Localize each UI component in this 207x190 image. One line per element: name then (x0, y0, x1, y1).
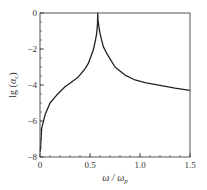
x-axis-label: ω / ωp (102, 172, 128, 185)
major-ticks (40, 13, 190, 157)
x-tick-labels: 00.51.01.5 (38, 160, 196, 170)
chart: 00.51.01.5 0−2−4−6−8 ω / ωp lg (αc) (0, 0, 207, 190)
y-tick-label: −2 (27, 44, 37, 54)
plot-frame (40, 13, 190, 157)
y-tick-label: −4 (27, 80, 37, 90)
y-tick-label: −8 (27, 152, 37, 162)
x-tick-label: 1.5 (184, 160, 196, 170)
y-tick-labels: 0−2−4−6−8 (27, 8, 37, 162)
y-tick-label: −6 (27, 116, 37, 126)
x-tick-label: 0.5 (84, 160, 96, 170)
y-tick-label: 0 (33, 8, 38, 18)
data-line (40, 13, 190, 152)
minor-ticks (40, 13, 190, 157)
x-tick-label: 1.0 (134, 160, 146, 170)
y-axis-label: lg (αc) (7, 72, 20, 97)
x-tick-label: 0 (38, 160, 43, 170)
